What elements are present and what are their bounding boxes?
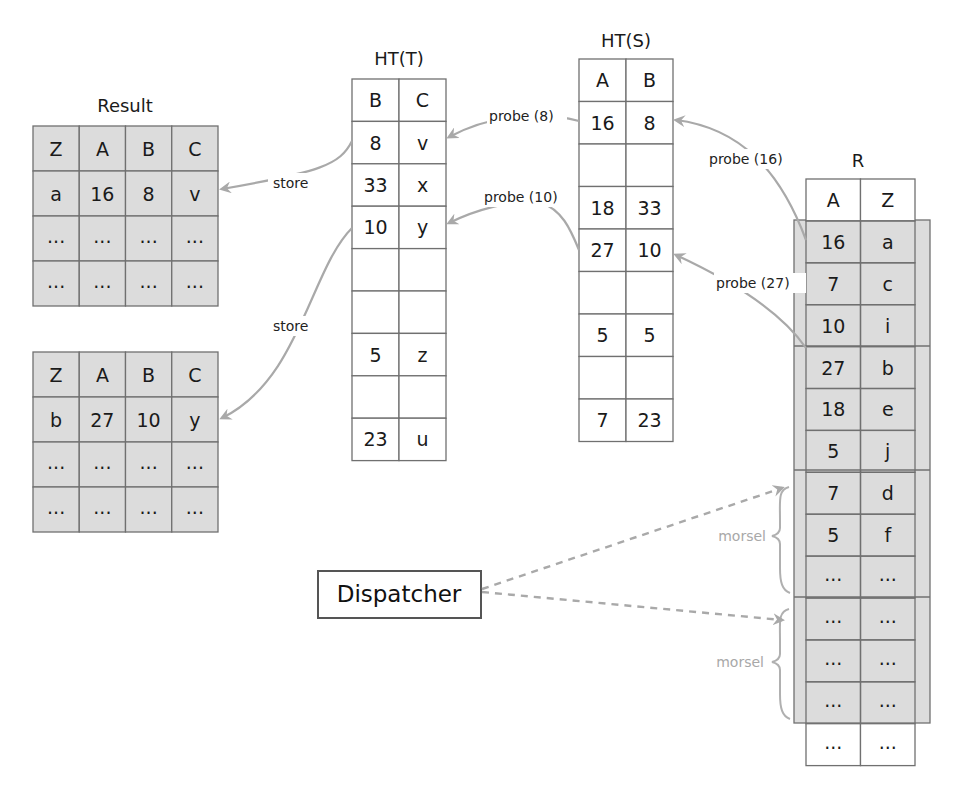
table-cell: ... <box>79 261 125 306</box>
store-label-1: store <box>273 175 308 191</box>
table-cell: b <box>861 347 916 389</box>
svg-text:A: A <box>96 364 109 386</box>
table-cell: ... <box>861 598 916 640</box>
svg-text:d: d <box>882 482 894 504</box>
svg-text:A: A <box>96 138 109 160</box>
svg-text:...: ... <box>93 225 111 247</box>
table-cell <box>399 376 446 418</box>
svg-text:...: ... <box>824 605 842 627</box>
svg-text:10: 10 <box>363 216 387 238</box>
table-cell <box>579 144 626 187</box>
table-cell <box>399 249 446 291</box>
table-header-cell: Z <box>33 352 79 397</box>
table-cell: ... <box>806 598 861 640</box>
svg-text:...: ... <box>879 731 897 753</box>
svg-text:...: ... <box>186 496 204 518</box>
svg-text:z: z <box>418 344 428 366</box>
svg-text:...: ... <box>93 496 111 518</box>
r-title: R <box>852 150 865 171</box>
r-table: AZ16a7c10i27b18e5j7d5f..................… <box>806 179 915 766</box>
probe-16-arrow: probe (16) <box>676 120 806 240</box>
svg-text:...: ... <box>824 731 842 753</box>
svg-text:HT(S): HT(S) <box>601 30 651 51</box>
svg-text:27: 27 <box>90 409 114 431</box>
table-cell: x <box>399 164 446 206</box>
svg-text:b: b <box>882 357 894 379</box>
table-cell: 16 <box>806 221 861 263</box>
table-header-cell: A <box>806 179 861 221</box>
svg-text:7: 7 <box>827 273 839 295</box>
svg-text:23: 23 <box>363 428 387 450</box>
table-cell <box>626 357 673 400</box>
table-cell: c <box>861 263 916 305</box>
dispatcher-box: Dispatcher <box>318 571 481 618</box>
table-cell <box>352 291 399 333</box>
svg-text:...: ... <box>47 270 65 292</box>
table-header-cell: Z <box>861 179 916 221</box>
svg-text:27: 27 <box>821 357 845 379</box>
table-cell: 5 <box>579 314 626 357</box>
svg-text:10: 10 <box>637 239 661 261</box>
svg-text:...: ... <box>140 270 158 292</box>
result-table-2: ZABCb2710y........................ <box>33 352 218 532</box>
svg-text:C: C <box>188 364 201 386</box>
table-cell: 8 <box>626 102 673 145</box>
svg-text:...: ... <box>186 270 204 292</box>
table-cell: 10 <box>626 229 673 272</box>
table-header-cell: C <box>172 352 218 397</box>
svg-text:...: ... <box>824 563 842 585</box>
svg-text:...: ... <box>47 451 65 473</box>
svg-text:u: u <box>416 428 428 450</box>
svg-text:C: C <box>188 138 201 160</box>
table-cell: z <box>399 333 446 375</box>
table-header-cell: A <box>79 352 125 397</box>
svg-text:10: 10 <box>821 315 845 337</box>
svg-text:5: 5 <box>369 344 381 366</box>
svg-text:x: x <box>417 174 428 196</box>
svg-text:10: 10 <box>137 409 161 431</box>
svg-text:...: ... <box>93 451 111 473</box>
table-cell: ... <box>33 261 79 306</box>
table-cell: 18 <box>806 389 861 431</box>
table-cell: 16 <box>79 171 125 216</box>
table-cell: y <box>399 206 446 248</box>
store-arrow-1: store <box>222 141 352 193</box>
svg-text:B: B <box>643 69 656 91</box>
morsel-brace-1: morsel <box>718 487 790 593</box>
table-cell: ... <box>172 487 218 532</box>
table-cell: a <box>861 221 916 263</box>
table-cell: u <box>399 418 446 460</box>
svg-text:5: 5 <box>643 324 655 346</box>
svg-text:18: 18 <box>590 197 614 219</box>
svg-text:7: 7 <box>827 482 839 504</box>
morsel-label-2: morsel <box>716 654 764 670</box>
table-cell: v <box>399 121 446 163</box>
table-cell: ... <box>172 261 218 306</box>
table-cell: f <box>861 514 916 556</box>
table-header-cell: B <box>626 59 673 102</box>
svg-text:5: 5 <box>827 440 839 462</box>
ht-t-table: BC8v33x10y5z23u <box>352 79 446 461</box>
svg-text:...: ... <box>824 689 842 711</box>
result-table-1: ZABCa168v........................ <box>33 126 218 306</box>
table-cell: 33 <box>352 164 399 206</box>
table-header-cell: B <box>126 126 172 171</box>
svg-text:A: A <box>827 189 840 211</box>
svg-text:16: 16 <box>821 231 845 253</box>
table-cell: 27 <box>579 229 626 272</box>
svg-text:...: ... <box>93 270 111 292</box>
svg-text:...: ... <box>186 225 204 247</box>
ht-s-title: HT(S) <box>601 30 651 51</box>
store-arrow-2: store <box>222 228 352 418</box>
table-cell: b <box>33 397 79 442</box>
table-cell: 27 <box>79 397 125 442</box>
table-cell: 10 <box>806 305 861 347</box>
svg-text:B: B <box>369 89 382 111</box>
svg-text:...: ... <box>879 689 897 711</box>
table-cell <box>352 376 399 418</box>
svg-text:y: y <box>189 409 200 431</box>
svg-text:16: 16 <box>90 183 114 205</box>
svg-text:b: b <box>50 409 62 431</box>
table-cell <box>579 272 626 315</box>
svg-text:5: 5 <box>827 524 839 546</box>
